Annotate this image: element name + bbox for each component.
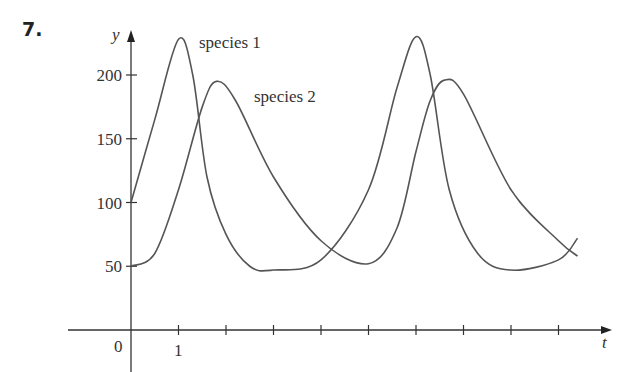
x-tick-0: 0 [114, 337, 123, 356]
x-tick-1: 1 [174, 341, 183, 360]
y-arrow-icon [127, 30, 135, 42]
y-axis-label: y [110, 25, 120, 44]
x-axis-label: t [602, 333, 608, 352]
species-2-label: species 2 [254, 87, 316, 106]
species-1-label: species 1 [199, 33, 261, 52]
svg-text:50: 50 [105, 257, 122, 276]
series-1-curve [131, 37, 578, 271]
svg-text:200: 200 [97, 66, 123, 85]
svg-text:150: 150 [97, 130, 123, 149]
chart: 50100150200 0 1 t y species 1 species 2 [0, 0, 632, 372]
svg-text:100: 100 [97, 194, 123, 213]
